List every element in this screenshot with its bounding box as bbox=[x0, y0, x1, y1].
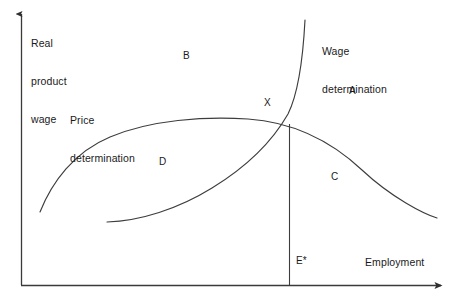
y-axis-title: Real product wage bbox=[31, 11, 67, 152]
price-determination-label-line1: Price bbox=[70, 114, 135, 127]
y-axis-title-line3: wage bbox=[31, 113, 67, 126]
diagram-canvas: Real product wage Employment Price deter… bbox=[0, 0, 458, 300]
wage-determination-curve bbox=[107, 20, 305, 222]
region-label-b: B bbox=[183, 50, 190, 62]
price-determination-label-line2: determination bbox=[70, 152, 135, 165]
wage-determination-label-line1: Wage bbox=[322, 45, 387, 58]
x-axis-title: Employment bbox=[365, 256, 424, 269]
intersection-label-x: X bbox=[264, 97, 271, 109]
region-label-d: D bbox=[159, 156, 166, 168]
diagram-svg bbox=[0, 0, 458, 300]
region-label-a: A bbox=[349, 85, 356, 97]
equilibrium-employment-label: E* bbox=[296, 255, 307, 267]
y-axis-title-line2: product bbox=[31, 75, 67, 88]
wage-determination-label: Wage determination bbox=[322, 19, 387, 121]
y-axis-title-line1: Real bbox=[31, 37, 67, 50]
region-label-c: C bbox=[331, 171, 338, 183]
price-determination-label: Price determination bbox=[70, 88, 135, 190]
